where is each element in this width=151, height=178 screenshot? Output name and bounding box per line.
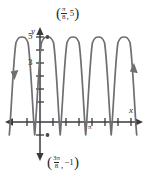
maximum-point-label: ( π 8 , 5 ) — [56, 6, 79, 21]
min-label-value: −1 — [64, 158, 74, 167]
min-label-fraction: 3π 8 — [52, 155, 61, 170]
min-label-numerator: 3π — [52, 155, 61, 162]
trig-graph-figure — [0, 0, 151, 178]
min-label-close-paren: ) — [74, 155, 79, 170]
x-axis-label: x — [129, 106, 133, 115]
max-label-close-paren: ) — [74, 6, 79, 21]
y-tick-label-3: 3 — [28, 58, 33, 67]
y-tick-label-5: 5 — [28, 32, 33, 41]
minimum-point-label: ( 3π 8 , −1 ) — [47, 155, 79, 170]
minimum-point-marker — [46, 133, 50, 137]
maximum-point-marker — [46, 35, 50, 39]
min-label-denominator: 8 — [54, 162, 60, 170]
x-tick-label-pi: π — [88, 124, 92, 131]
figure-background — [0, 0, 151, 178]
